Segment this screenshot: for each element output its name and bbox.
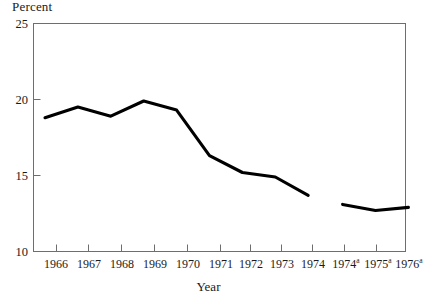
x-tick-text: 1971 [209, 257, 233, 271]
x-tick-text: 1976 [395, 257, 419, 271]
x-tick-label-1971: 1971 [209, 258, 233, 270]
x-tick-label-1967: 1967 [77, 258, 101, 270]
x-tick-text: 1975 [364, 257, 388, 271]
plot-frame [34, 24, 406, 252]
x-tick-label-1968: 1968 [110, 258, 134, 270]
x-tick-label-1976a: 1976a [395, 258, 422, 270]
x-axis-ticks [57, 245, 377, 252]
x-tick-text: 1973 [270, 257, 294, 271]
x-tick-label-1969: 1969 [143, 258, 167, 270]
x-tick-label-1973: 1973 [270, 258, 294, 270]
x-tick-text: 1969 [143, 257, 167, 271]
x-tick-label-1970: 1970 [176, 258, 200, 270]
x-tick-sup: a [388, 256, 391, 265]
y-tick-label-20: 20 [2, 94, 28, 106]
x-tick-sup: a [419, 256, 422, 265]
x-tick-text: 1968 [110, 257, 134, 271]
x-tick-text: 1974 [332, 257, 356, 271]
x-tick-text: 1974 [301, 257, 325, 271]
x-tick-label-1975a: 1975a [364, 258, 391, 270]
y-tick-label-15: 15 [2, 170, 28, 182]
data-line-revised [343, 204, 409, 210]
data-line-primary [45, 101, 308, 195]
x-tick-sup: a [356, 256, 359, 265]
y-axis-ticks [34, 100, 41, 176]
x-tick-label-1972: 1972 [239, 258, 263, 270]
x-tick-text: 1970 [176, 257, 200, 271]
x-tick-label-1966: 1966 [44, 258, 68, 270]
x-tick-text: 1967 [77, 257, 101, 271]
y-tick-label-10: 10 [2, 246, 28, 258]
x-tick-label-1974a: 1974a [332, 258, 359, 270]
x-axis-title: Year [0, 279, 417, 295]
y-tick-label-25: 25 [2, 18, 28, 30]
data-series-group [45, 101, 408, 211]
x-tick-text: 1972 [239, 257, 263, 271]
x-tick-text: 1966 [44, 257, 68, 271]
x-tick-label-1974: 1974 [301, 258, 325, 270]
